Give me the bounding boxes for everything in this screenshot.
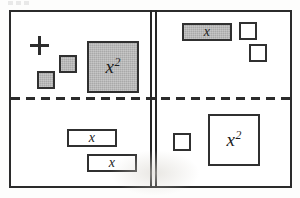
divider-rule-left — [150, 10, 152, 188]
x-squared-tile-shaded[interactable]: x2 — [87, 41, 139, 93]
algebra-tile-mat: x2 x x x x2 — [9, 10, 292, 188]
quadrant-top-left[interactable]: x2 — [11, 12, 152, 98]
tile-label-base: x — [105, 56, 114, 77]
quadrant-bottom-right[interactable]: x2 — [158, 100, 290, 186]
unit-tile-shaded[interactable] — [37, 71, 55, 89]
tile-label: x2 — [105, 56, 120, 78]
tile-label: x — [204, 24, 210, 40]
vertical-double-divider — [150, 10, 158, 188]
x-tile-blank[interactable]: x — [87, 154, 137, 172]
unit-tile-blank[interactable] — [239, 22, 257, 40]
quadrant-bottom-left[interactable]: x x — [11, 100, 152, 186]
scan-artifact — [8, 1, 30, 5]
tile-label-exponent: 2 — [236, 129, 242, 142]
unit-tile-blank[interactable] — [249, 44, 267, 62]
x-tile-blank[interactable]: x — [67, 129, 117, 147]
tile-label: x — [109, 155, 115, 171]
tile-label: x2 — [226, 129, 241, 151]
x-tile-shaded[interactable]: x — [182, 23, 232, 41]
tile-label-base: x — [226, 129, 235, 150]
plus-sign-icon — [30, 36, 49, 55]
divider-rule-right — [155, 10, 157, 188]
tile-label-exponent: 2 — [115, 56, 121, 69]
unit-tile-blank[interactable] — [173, 133, 191, 151]
unit-tile-shaded[interactable] — [59, 55, 77, 73]
quadrant-top-right[interactable]: x — [158, 12, 290, 98]
x-squared-tile-blank[interactable]: x2 — [208, 114, 260, 166]
tile-label: x — [89, 130, 95, 146]
